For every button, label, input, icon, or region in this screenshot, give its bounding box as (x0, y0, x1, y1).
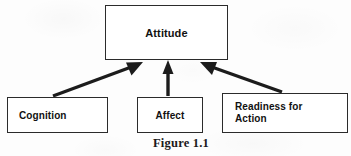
node-attitude[interactable]: Attitude (105, 5, 228, 60)
figure-caption: Figure 1.1 (136, 136, 226, 151)
node-cognition[interactable]: Cognition (7, 97, 108, 133)
arrow-affect-to-attitude (163, 60, 174, 96)
node-affect-label: Affect (156, 110, 185, 121)
node-readiness-text: Readiness for Action (235, 101, 302, 125)
node-affect[interactable]: Affect (137, 97, 203, 133)
arrow-readiness-to-attitude (200, 62, 282, 92)
node-readiness-for-action[interactable]: Readiness for Action (222, 93, 348, 133)
arrow-cognition-to-attitude (53, 62, 143, 96)
node-readiness-label-line-2: Action (235, 113, 302, 125)
node-attitude-label: Attitude (145, 27, 187, 39)
node-cognition-label: Cognition (19, 110, 67, 121)
figure-diagram: Attitude Cognition Affect Readiness for … (0, 0, 351, 156)
node-readiness-label-line-1: Readiness for (235, 101, 302, 113)
